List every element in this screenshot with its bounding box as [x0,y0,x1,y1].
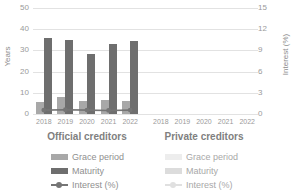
category-label-official-creditors: Official creditors [33,131,141,142]
legend-swatch-interest-line-faint-icon [165,182,182,188]
x-tick-label: 2018 [151,118,170,130]
x-ticks-private: 20182019202020212022 [150,118,258,130]
legend-item-maturity: Maturity [51,164,171,178]
bar-maturity [87,54,95,114]
legend-label-maturity: Maturity [72,166,104,176]
x-tick-label: 2021 [216,118,235,130]
bar-pair [99,8,118,114]
legend-item-interest: Interest (%) [51,178,171,192]
category-label-private-creditors: Private creditors [150,131,258,142]
bar-pair [194,8,213,114]
x-tick-label: 2022 [238,118,257,130]
y-tick-label-left: 10 [13,89,29,97]
x-tick-label: 2020 [77,118,96,130]
y-axis-left-title: Years [3,34,12,80]
legend-item-grace-period-private: Grace period [165,150,285,164]
legend-item-maturity-private: Maturity [165,164,285,178]
legend-item-grace-period: Grace period [51,150,171,164]
legend-swatch-interest-line-icon [51,182,68,188]
x-tick-label: 2021 [99,118,118,130]
legend-label-interest-private: Interest (%) [186,180,233,190]
bar-pair [34,8,53,114]
y-axis-right-ticks: 03691215 [258,0,276,118]
y-tick-label-left: 20 [13,68,29,76]
x-tick-label: 2018 [34,118,53,130]
bar-maturity [44,38,52,114]
bar-group-private-creditors [150,8,258,114]
y-tick-label-right: 12 [258,25,276,33]
x-tick-label: 2019 [56,118,75,130]
bar-pair [173,8,192,114]
legend-private-creditors: Grace period Maturity Interest (%) [165,150,285,192]
plot-area [33,8,258,114]
chart-container: Years Interest (%) 01020304050 03691215 … [0,0,293,196]
legend-swatch-maturity-faint-icon [165,168,182,174]
y-tick-label-right: 9 [258,46,276,54]
bar-pair [77,8,96,114]
bar-pair [238,8,257,114]
legend-label-grace-period-private: Grace period [186,152,238,162]
y-tick-label-left: 30 [13,46,29,54]
bar-maturity [109,44,117,114]
bar-group-official-creditors [33,8,141,114]
category-labels: Official creditors Private creditors [33,131,258,145]
bar-grace-period [36,102,44,114]
y-tick-label-left: 0 [13,110,29,118]
y-axis-right-title: Interest (%) [281,31,290,79]
y-tick-label-left: 50 [13,4,29,12]
x-tick-label: 2022 [121,118,140,130]
bar-pair [56,8,75,114]
legend-swatch-grace-period-icon [51,154,68,160]
legend-official-creditors: Grace period Maturity Interest (%) [51,150,171,192]
legend-label-interest: Interest (%) [72,180,119,190]
y-axis-left-ticks: 01020304050 [13,0,29,118]
legend-label-grace-period: Grace period [72,152,124,162]
legend-swatch-grace-period-faint-icon [165,154,182,160]
bar-pair [151,8,170,114]
bar-grace-period [79,101,87,114]
y-tick-label-right: 6 [258,68,276,76]
bar-maturity [130,41,138,114]
y-tick-label-right: 0 [258,110,276,118]
bar-pair [216,8,235,114]
x-ticks-official: 20182019202020212022 [33,118,141,130]
bar-pair [121,8,140,114]
bar-grace-period [122,101,130,114]
bar-maturity [65,40,73,114]
legend-swatch-maturity-icon [51,168,68,174]
legend-area: Grace period Maturity Interest (%) Grace… [33,150,285,194]
y-tick-label-left: 40 [13,25,29,33]
gridline [33,114,258,115]
bar-grace-period [57,97,65,114]
y-tick-label-right: 15 [258,4,276,12]
y-tick-label-right: 3 [258,89,276,97]
legend-item-interest-private: Interest (%) [165,178,285,192]
legend-label-maturity-private: Maturity [186,166,218,176]
bar-grace-period [101,100,109,114]
x-axis-tick-labels: 20182019202020212022 2018201920202021202… [33,118,258,130]
x-tick-label: 2020 [194,118,213,130]
x-tick-label: 2019 [173,118,192,130]
